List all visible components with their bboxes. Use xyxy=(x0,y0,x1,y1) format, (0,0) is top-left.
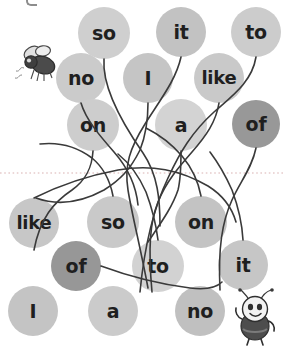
word-bubble-label: like xyxy=(16,214,51,232)
cropped-title-glyph xyxy=(26,0,37,6)
word-bubble-label: I xyxy=(30,302,37,321)
word-bubble-label: no xyxy=(68,69,94,88)
word-bubble-label: to xyxy=(245,23,267,42)
word-bubble[interactable]: so xyxy=(78,7,130,59)
bee-eye-left xyxy=(248,304,253,310)
fly-head xyxy=(25,56,37,68)
word-bubble[interactable]: like xyxy=(194,53,244,103)
word-bubble[interactable]: like xyxy=(9,198,59,248)
word-bubble[interactable]: no xyxy=(56,53,106,103)
word-bubble[interactable]: it xyxy=(156,7,206,57)
word-bubble[interactable]: on xyxy=(67,99,119,151)
word-bubble[interactable]: to xyxy=(231,7,281,57)
word-bubble-label: it xyxy=(173,23,188,42)
word-bubble-label: on xyxy=(80,116,106,135)
word-bubble[interactable]: no xyxy=(175,286,225,336)
word-bubble[interactable]: to xyxy=(132,240,184,292)
word-bubble-label: so xyxy=(101,213,125,232)
word-bubble-label: it xyxy=(235,256,250,275)
word-bubble[interactable]: it xyxy=(218,240,268,290)
word-matching-worksheet: soittonoIlikeonaoflikesoonoftoitIano xyxy=(0,0,285,346)
fly-eye xyxy=(27,58,31,62)
word-bubble-label: of xyxy=(246,115,267,134)
bee-antenna-tip-right xyxy=(270,288,274,292)
word-bubble-label: to xyxy=(147,257,169,276)
word-bubble[interactable]: of xyxy=(51,241,101,291)
word-bubble-label: no xyxy=(187,302,213,321)
word-bubble-label: of xyxy=(66,257,87,276)
bee-antenna-tip-left xyxy=(238,288,242,292)
fly-illustration xyxy=(12,42,62,88)
word-bubble-label: so xyxy=(92,24,116,43)
word-bubble[interactable]: I xyxy=(8,286,58,336)
word-bubble-label: like xyxy=(201,69,236,87)
word-bubble-label: on xyxy=(188,213,214,232)
word-bubble-label: a xyxy=(175,116,188,135)
bee-head xyxy=(243,297,268,322)
word-bubble[interactable]: a xyxy=(88,286,138,336)
word-bubble[interactable]: so xyxy=(87,196,139,248)
bee-character-illustration xyxy=(230,288,282,346)
word-bubble-label: a xyxy=(107,302,120,321)
bee-eye-right xyxy=(257,304,262,310)
fly-motion-trail xyxy=(15,68,24,79)
word-bubble[interactable]: of xyxy=(232,100,280,148)
word-bubble-label: I xyxy=(145,69,152,88)
word-bubble[interactable]: on xyxy=(175,196,227,248)
word-bubble[interactable]: a xyxy=(155,99,207,151)
word-bubble[interactable]: I xyxy=(123,53,173,103)
